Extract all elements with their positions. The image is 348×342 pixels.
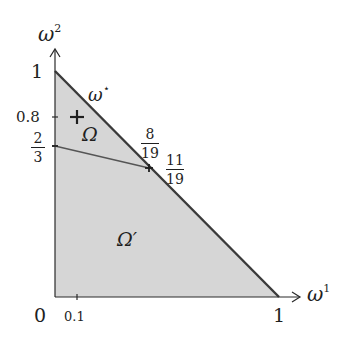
y-axis-label: ω2 <box>38 24 61 44</box>
x-tick-1: 1 <box>273 306 285 325</box>
y-tick-0.8: 0.8 <box>16 110 40 125</box>
intersection-y-fraction: 1119 <box>166 153 184 186</box>
omega-star-label: ω⋆ <box>88 86 110 104</box>
y-tick-two-thirds: 23 <box>31 131 45 164</box>
diagram-canvas: ω2 ω1 1 0.8 23 0 0.1 1 ω⋆ Ω Ω′ 819 1119 <box>0 0 348 342</box>
region-omega-label: Ω <box>82 125 98 144</box>
x-axis-label: ω1 <box>307 284 330 304</box>
x-tick-0.1: 0.1 <box>64 310 85 323</box>
intersection-x-fraction: 819 <box>141 127 159 160</box>
x-tick-0: 0 <box>34 306 46 325</box>
y-tick-1: 1 <box>31 62 43 81</box>
region-omega-prime-label: Ω′ <box>117 230 137 249</box>
